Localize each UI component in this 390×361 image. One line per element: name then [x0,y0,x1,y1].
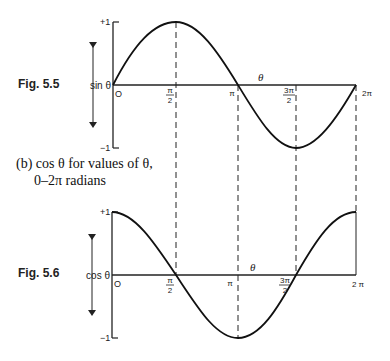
dashed-gridlines [176,22,356,338]
cos-y-label: cos θ [86,270,110,281]
svg-text:2: 2 [168,286,173,295]
svg-text:2: 2 [283,286,288,295]
fig-5-5-plot: +1 −1 sin θ O θ π 2 π 3π 2 2π [90,17,373,153]
fig-5-6-plot: +1 −1 cos θ O θ π 2 π 3π 2 2 π [86,207,364,343]
svg-text:π: π [167,86,173,95]
cos-y-min-label: −1 [100,333,110,343]
svg-text:3π: 3π [284,86,294,95]
cos-x-axis-label: θ [250,261,256,273]
sin-y-max-label: +1 [100,17,110,27]
sin-y-label: sin θ [90,80,112,91]
figure-canvas: +1 −1 sin θ O θ π 2 π 3π 2 2π [0,0,390,361]
svg-text:π: π [227,279,233,288]
sin-x-axis-label: θ [258,71,264,83]
svg-text:3π: 3π [280,276,290,285]
svg-text:2: 2 [287,96,292,105]
cos-x-ticks: π 2 π 3π 2 2 π [166,276,365,295]
sin-x-ticks: π 2 π 3π 2 2π [166,86,372,105]
cos-y-max-label: +1 [100,207,110,217]
svg-text:π: π [229,89,235,98]
sin-y-min-label: −1 [100,143,110,153]
sin-origin-label: O [115,89,122,99]
svg-text:2π: 2π [362,89,372,98]
svg-text:2: 2 [168,96,173,105]
svg-text:2 π: 2 π [352,280,365,289]
cos-origin-label: O [114,279,121,289]
svg-text:π: π [167,276,173,285]
trig-figures: Fig. 5.5 Fig. 5.6 (b) cos θ for values o… [0,0,390,361]
